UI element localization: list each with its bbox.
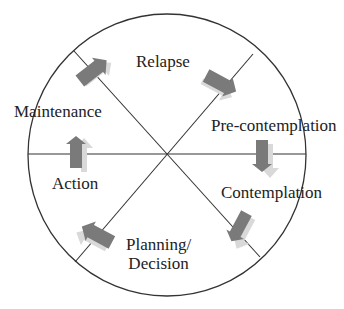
stage-label-relapse: Relapse	[136, 52, 190, 71]
stage-label-contemplation: Contemplation	[221, 183, 322, 202]
arrow-icon-planning-to-action	[72, 216, 117, 258]
stage-label-maintenance: Maintenance	[14, 102, 102, 121]
stage-label-planning-line1: Planning/	[126, 235, 191, 254]
stage-label-decision-line2: Decision	[126, 254, 191, 273]
arrow-icon-relapse-to-precontemplation	[198, 65, 242, 105]
stage-label-planning-decision: Planning/ Decision	[126, 235, 191, 273]
arrow-icon-contemplation-to-planning	[221, 208, 262, 252]
arrow-icon-precontemplation-to-contemplation	[252, 140, 279, 178]
stage-label-action: Action	[52, 174, 98, 193]
stage-label-pre-contemplation: Pre-contemplation	[211, 116, 337, 135]
stages-of-change-cycle-diagram: Relapse Pre-contemplation Contemplation …	[0, 0, 344, 309]
